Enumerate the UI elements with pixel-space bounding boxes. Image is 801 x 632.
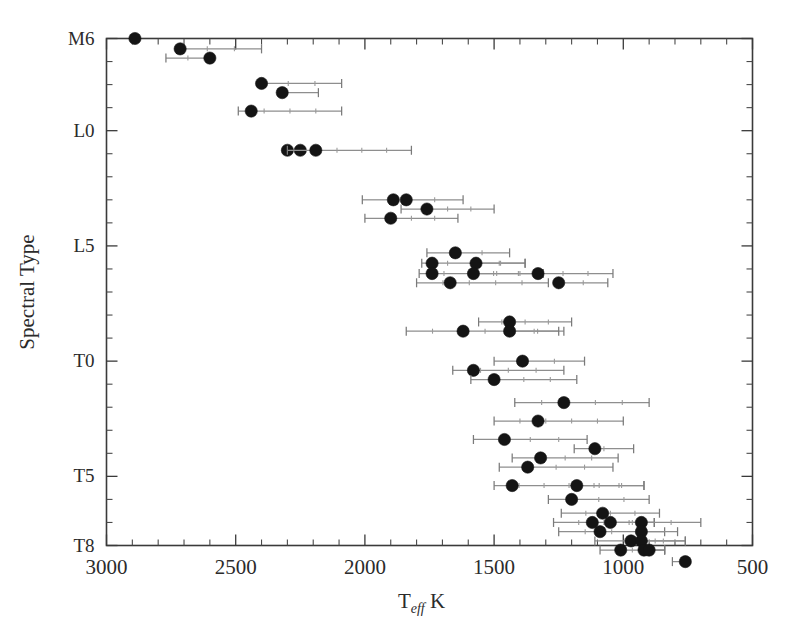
data-point-marker xyxy=(467,267,479,279)
plot-frame xyxy=(107,39,753,546)
data-point-group xyxy=(417,277,549,289)
data-point-group xyxy=(515,397,649,409)
x-axis-title-unit: K xyxy=(425,589,445,613)
data-point-marker xyxy=(255,77,267,89)
y-tick-label: T5 xyxy=(73,465,94,486)
data-point-group xyxy=(255,77,341,89)
x-tick-label: 3000 xyxy=(86,555,128,579)
data-point-group xyxy=(574,443,633,455)
data-point-marker xyxy=(174,43,186,55)
x-tick-label: 500 xyxy=(737,555,769,579)
x-tick-label: 2500 xyxy=(215,555,257,579)
data-point-group xyxy=(287,144,411,156)
data-point-group xyxy=(276,87,318,99)
data-point-marker xyxy=(679,556,691,568)
data-point-group xyxy=(471,373,577,385)
data-point-marker xyxy=(522,461,534,473)
data-point-marker xyxy=(488,373,500,385)
x-axis-title: Teff K xyxy=(398,589,445,616)
data-point-marker xyxy=(558,397,570,409)
data-point-marker xyxy=(571,479,583,491)
y-tick-label: M6 xyxy=(68,28,94,49)
data-point-group xyxy=(427,247,510,259)
data-point-marker xyxy=(532,267,544,279)
axis-labels-layer: 30002500200015001000500M6L0L5T0T5T8Teff … xyxy=(15,28,768,616)
figure-container: 30002500200015001000500M6L0L5T0T5T8Teff … xyxy=(0,0,801,632)
data-point-group xyxy=(479,316,572,328)
data-point-marker xyxy=(400,194,412,206)
data-point-marker xyxy=(449,247,461,259)
data-point-marker xyxy=(204,52,216,64)
x-tick-label: 1500 xyxy=(473,555,515,579)
data-point-marker xyxy=(604,516,616,528)
x-tick-label: 1000 xyxy=(602,555,644,579)
data-point-group xyxy=(401,203,494,215)
data-point-marker xyxy=(245,105,257,117)
data-point-marker xyxy=(594,526,606,538)
data-points-layer xyxy=(129,32,701,567)
data-point-marker xyxy=(385,212,397,224)
data-point-group xyxy=(453,364,564,376)
data-point-marker xyxy=(532,415,544,427)
data-point-group xyxy=(504,325,559,337)
data-point-group xyxy=(470,257,525,269)
data-point-marker xyxy=(387,194,399,206)
y-tick-label: T0 xyxy=(73,350,94,371)
y-tick-label: L5 xyxy=(73,235,94,256)
data-point-group xyxy=(548,493,649,505)
data-point-group xyxy=(672,556,691,568)
data-point-group xyxy=(362,194,399,206)
data-point-marker xyxy=(516,355,528,367)
data-point-marker xyxy=(457,325,469,337)
x-tick-label: 2000 xyxy=(344,555,386,579)
y-tick-label: L0 xyxy=(73,120,94,141)
data-point-group xyxy=(174,43,261,55)
data-point-marker xyxy=(589,443,601,455)
data-point-marker xyxy=(506,479,518,491)
data-point-marker xyxy=(553,277,565,289)
data-point-group xyxy=(238,105,341,117)
data-point-marker xyxy=(566,493,578,505)
data-point-marker xyxy=(467,364,479,376)
data-point-marker xyxy=(129,32,141,44)
y-tick-label: T8 xyxy=(73,535,94,556)
data-point-group xyxy=(473,433,587,445)
data-point-marker xyxy=(421,203,433,215)
data-point-marker xyxy=(643,544,655,556)
data-point-group xyxy=(365,212,458,224)
data-point-marker xyxy=(310,144,322,156)
data-point-group xyxy=(166,52,216,64)
data-point-marker xyxy=(535,452,547,464)
data-point-group xyxy=(532,267,613,279)
data-point-group xyxy=(400,194,463,206)
axes-layer xyxy=(107,39,753,546)
data-point-group xyxy=(499,461,613,473)
data-point-group xyxy=(571,479,644,491)
data-point-marker xyxy=(276,87,288,99)
data-point-marker xyxy=(504,325,516,337)
data-point-marker xyxy=(426,267,438,279)
data-point-marker xyxy=(498,433,510,445)
spectral-type-teff-scatter-plot: 30002500200015001000500M6L0L5T0T5T8Teff … xyxy=(0,0,801,632)
data-point-group xyxy=(494,415,623,427)
x-axis-title-main: T xyxy=(398,589,411,613)
y-axis-title: Spectral Type xyxy=(15,234,39,349)
data-point-group xyxy=(129,32,141,44)
data-point-group xyxy=(494,355,584,367)
data-point-marker xyxy=(444,277,456,289)
data-point-group xyxy=(553,277,608,289)
